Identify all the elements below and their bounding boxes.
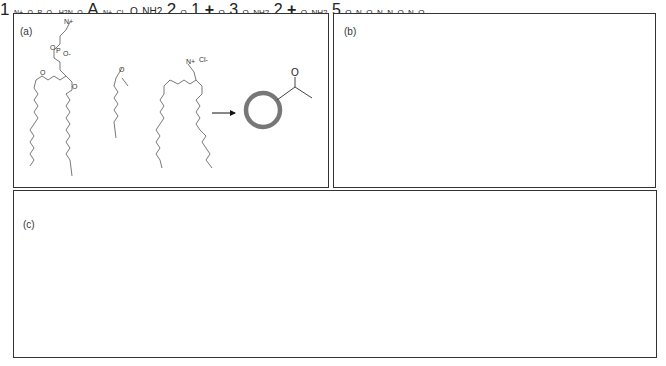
vesicle-1-a: [246, 93, 280, 127]
ketone-chain-a: [114, 68, 128, 138]
cationic-lipid-a: [156, 64, 212, 168]
svg-text:O: O: [119, 66, 125, 73]
svg-text:Cl-: Cl-: [199, 56, 209, 63]
svg-text:O-: O-: [63, 50, 71, 57]
svg-text:P: P: [56, 47, 61, 54]
svg-text:N+: N+: [186, 58, 195, 65]
diagram-graphics: N+ O P O- O O O N+ Cl- O: [0, 0, 666, 366]
svg-text:O: O: [291, 67, 299, 78]
svg-text:O: O: [72, 83, 78, 90]
svg-text:O: O: [40, 69, 46, 76]
svg-text:N+: N+: [64, 18, 73, 25]
